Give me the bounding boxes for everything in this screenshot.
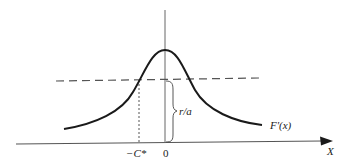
f-prime-curve xyxy=(64,50,262,129)
x-axis-label: X xyxy=(326,145,335,157)
dashed-level-line xyxy=(56,78,260,81)
brace-label: r/a xyxy=(179,105,192,117)
diagram: r/a F'(x) X 0 −C* xyxy=(0,0,349,166)
c-star-label: −C* xyxy=(126,147,147,159)
curve-label: F'(x) xyxy=(269,119,292,132)
origin-label: 0 xyxy=(163,147,169,159)
r-over-a-brace xyxy=(166,81,177,142)
